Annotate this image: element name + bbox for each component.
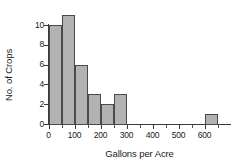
y-tick-label-6: 6 xyxy=(24,60,44,69)
x-tick-200 xyxy=(101,125,102,129)
bar xyxy=(101,104,114,125)
bar xyxy=(205,114,218,125)
y-tick-label-2: 2 xyxy=(24,100,44,109)
y-tick-8 xyxy=(44,45,48,46)
y-tick-label-0: 0 xyxy=(24,120,44,129)
plot-area: 0246810 0100200300400500600 No. of Crops… xyxy=(0,0,243,168)
y-tick-label-10: 10 xyxy=(24,21,44,30)
bar xyxy=(49,25,62,125)
x-tick-400 xyxy=(153,125,154,129)
y-tick-label-4: 4 xyxy=(24,80,44,89)
x-axis-label: Gallons per Acre xyxy=(48,148,231,159)
x-tick-600 xyxy=(205,125,206,129)
x-minor-tick-50 xyxy=(62,125,63,128)
y-tick-6 xyxy=(44,65,48,66)
x-tick-300 xyxy=(127,125,128,129)
x-minor-tick-650 xyxy=(218,125,219,128)
y-tick-10 xyxy=(44,25,48,26)
y-axis-label: No. of Crops xyxy=(3,49,14,101)
x-minor-tick-150 xyxy=(88,125,89,128)
bar xyxy=(88,94,101,125)
x-minor-tick-550 xyxy=(192,125,193,128)
bar xyxy=(62,15,75,125)
y-tick-4 xyxy=(44,84,48,85)
x-tick-label-600: 600 xyxy=(190,131,220,140)
x-minor-tick-450 xyxy=(166,125,167,128)
bar xyxy=(114,94,127,125)
x-tick-500 xyxy=(179,125,180,129)
x-minor-tick-250 xyxy=(114,125,115,128)
y-tick-label-8: 8 xyxy=(24,40,44,49)
histogram-figure: 0246810 0100200300400500600 No. of Crops… xyxy=(0,0,243,168)
x-tick-0 xyxy=(49,125,50,129)
y-tick-0 xyxy=(44,124,48,125)
x-minor-tick-350 xyxy=(140,125,141,128)
y-tick-2 xyxy=(44,104,48,105)
bar xyxy=(75,65,88,125)
y-axis-label-wrapper: No. of Crops xyxy=(2,34,14,116)
x-tick-100 xyxy=(75,125,76,129)
